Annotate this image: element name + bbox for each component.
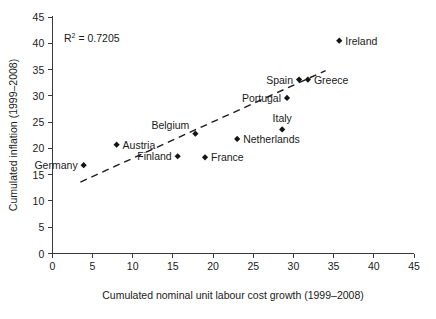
data-point-marker[interactable] <box>279 126 285 132</box>
data-points-group: GermanyAustriaFinlandFranceBelgiumNether… <box>34 35 377 172</box>
y-tick-label: 45 <box>33 11 45 23</box>
y-tick-label: 5 <box>38 221 44 233</box>
scatter-chart-figure: 051015202530354045 051015202530354045 Ge… <box>0 0 436 319</box>
y-axis-title: Cumulated inflation (1999–2008) <box>7 59 19 211</box>
x-tick-label: 25 <box>247 260 259 272</box>
r2-suffix: = 0.7205 <box>76 32 120 44</box>
x-axis-ticks: 051015202530354045 <box>49 254 420 272</box>
data-point-marker[interactable] <box>114 142 120 148</box>
x-axis-title: Cumulated nominal unit labour cost growt… <box>102 289 364 301</box>
x-tick-label: 40 <box>368 260 380 272</box>
data-point-marker[interactable] <box>336 38 342 44</box>
y-tick-label: 0 <box>38 248 44 260</box>
y-tick-label: 35 <box>33 64 45 76</box>
data-point-marker[interactable] <box>202 154 208 160</box>
data-point-label: Greece <box>314 74 349 86</box>
x-tick-label: 0 <box>49 260 55 272</box>
r2-annotation: R2 = 0.7205 <box>64 32 120 44</box>
data-point-label: Italy <box>273 112 293 124</box>
data-point-marker[interactable] <box>234 136 240 142</box>
data-point-label: Finland <box>137 150 172 162</box>
y-tick-label: 20 <box>33 142 45 154</box>
x-tick-label: 15 <box>167 260 179 272</box>
x-tick-label: 20 <box>207 260 219 272</box>
y-tick-label: 10 <box>33 195 45 207</box>
x-tick-label: 30 <box>288 260 300 272</box>
x-tick-label: 35 <box>328 260 340 272</box>
plot-area: 051015202530354045 051015202530354045 Ge… <box>0 0 436 319</box>
data-point-label: Spain <box>266 74 293 86</box>
y-tick-label: 30 <box>33 90 45 102</box>
data-point-label: Germany <box>34 159 78 171</box>
y-tick-label: 40 <box>33 37 45 49</box>
y-axis-ticks: 051015202530354045 <box>33 11 53 260</box>
data-point-label: Belgium <box>151 119 189 131</box>
data-point-label: Portugal <box>242 92 281 104</box>
data-point-marker[interactable] <box>175 153 181 159</box>
data-point-marker[interactable] <box>81 162 87 168</box>
data-point-label: Ireland <box>345 35 377 47</box>
trendline <box>80 71 325 182</box>
x-tick-label: 45 <box>408 260 420 272</box>
data-point-label: Netherlands <box>243 133 300 145</box>
x-tick-label: 10 <box>127 260 139 272</box>
x-tick-label: 5 <box>90 260 96 272</box>
data-point-label: France <box>211 151 244 163</box>
data-point-marker[interactable] <box>284 95 290 101</box>
data-point-label: Austria <box>123 139 156 151</box>
y-tick-label: 25 <box>33 116 45 128</box>
